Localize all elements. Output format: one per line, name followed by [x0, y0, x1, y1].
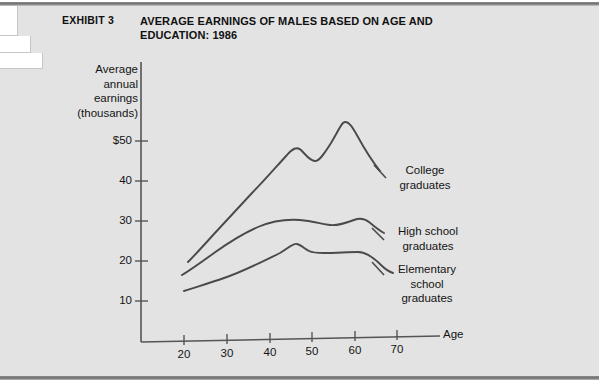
series-label-elementary-line-2: school — [410, 278, 443, 290]
earnings-line-chart: Average annual earnings (thousands) $50 … — [0, 0, 599, 385]
x-tick-label-30: 30 — [215, 347, 239, 359]
chart-svg — [0, 0, 599, 385]
series-line-high-school — [182, 219, 384, 275]
y-tick-label-20: 20 — [96, 254, 132, 266]
y-axis-label: Average annual earnings (thousands) — [60, 62, 138, 120]
y-axis-label-line-2: annual — [103, 78, 138, 90]
y-tick-label-50: $50 — [96, 134, 132, 146]
y-tick-label-40: 40 — [96, 174, 132, 186]
x-tick-label-60: 60 — [343, 344, 367, 356]
x-tick-label-50: 50 — [300, 345, 324, 357]
series-label-high-school-line-1: High school — [398, 225, 458, 237]
x-axis — [141, 336, 440, 342]
series-label-high-school-line-2: graduates — [402, 240, 453, 252]
x-tick-label-70: 70 — [385, 343, 409, 355]
series-label-college: College graduates — [384, 163, 466, 192]
x-axis-label: Age — [443, 328, 463, 340]
y-tick-label-10: 10 — [96, 294, 132, 306]
series-label-elementary-line-3: graduates — [401, 292, 452, 304]
x-tick-label-40: 40 — [258, 346, 282, 358]
series-label-elementary-line-1: Elementary — [398, 263, 456, 275]
series-label-college-line-1: College — [406, 164, 445, 176]
y-tick-label-30: 30 — [96, 214, 132, 226]
y-axis-label-line-1: Average — [95, 63, 138, 75]
y-axis-label-line-3: earnings — [94, 92, 138, 104]
x-tick-label-20: 20 — [172, 348, 196, 360]
y-axis-label-line-4: (thousands) — [77, 107, 138, 119]
series-label-college-line-2: graduates — [399, 179, 450, 191]
series-label-high-school: High school graduates — [382, 224, 474, 253]
exhibit-page: EXHIBIT 3AVERAGE EARNINGS OF MALES BASED… — [0, 0, 599, 385]
series-label-elementary: Elementary school graduates — [381, 262, 473, 306]
series-line-college — [188, 122, 380, 262]
